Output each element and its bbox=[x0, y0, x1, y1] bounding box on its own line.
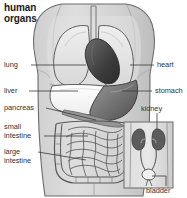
label-large-intestine: large intestine bbox=[4, 147, 31, 165]
label-kidney: kidney bbox=[141, 104, 162, 113]
label-stomach: stomach bbox=[155, 86, 183, 95]
anatomy-illustration bbox=[0, 0, 187, 198]
label-heart: heart bbox=[157, 60, 174, 69]
label-lung: lung bbox=[4, 60, 18, 69]
label-liver: liver bbox=[4, 86, 17, 95]
label-pancreas: pancreas bbox=[4, 103, 34, 112]
label-bladder: bladder bbox=[146, 186, 170, 195]
kidney-right bbox=[152, 129, 165, 150]
human-organs-figure: human organs lung liver pancreas small i… bbox=[0, 0, 187, 198]
kidney-left bbox=[132, 129, 145, 150]
figure-title: human organs bbox=[4, 2, 37, 24]
label-small-intestine: small intestine bbox=[4, 122, 31, 140]
